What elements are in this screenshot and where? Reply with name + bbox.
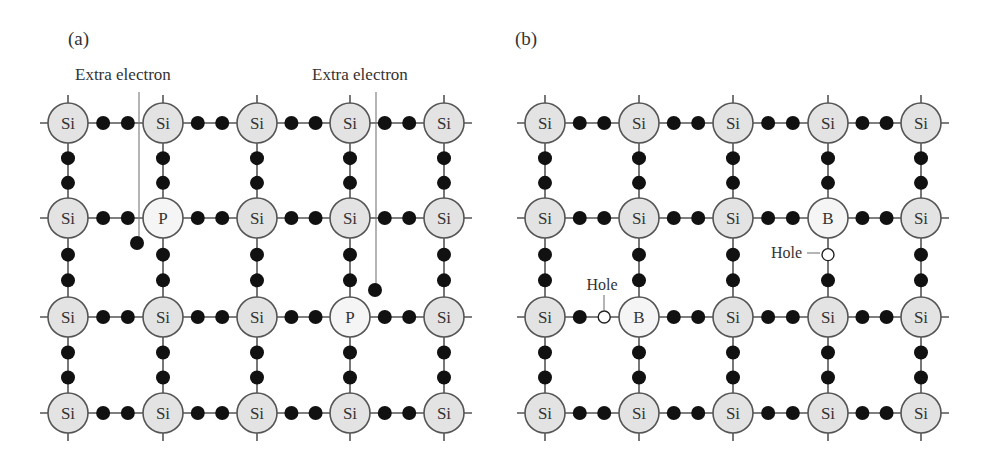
- electron-dot: [156, 176, 170, 190]
- electron-dot: [343, 176, 357, 190]
- electron-dot: [309, 310, 323, 324]
- electron-dot: [786, 211, 800, 225]
- electron-dot: [284, 406, 298, 420]
- atom-symbol: Si: [726, 404, 740, 423]
- annotation-label: Hole: [771, 244, 802, 261]
- electron-dot: [309, 211, 323, 225]
- electron-dot: [632, 370, 646, 384]
- electron-dot: [61, 176, 75, 190]
- electron-dot: [538, 346, 552, 360]
- electron-dot: [191, 211, 205, 225]
- atom-si: Si: [237, 198, 277, 238]
- electron-dot: [726, 151, 740, 165]
- electron-dot: [726, 273, 740, 287]
- electron-dot: [761, 211, 775, 225]
- electron-dot: [156, 370, 170, 384]
- atom-si: Si: [424, 393, 464, 433]
- atom-si: Si: [619, 198, 659, 238]
- atom-si: Si: [808, 103, 848, 143]
- electron-dot: [691, 310, 705, 324]
- electron-dot: [597, 116, 611, 130]
- electron-dot: [61, 370, 75, 384]
- electron-dot: [573, 211, 587, 225]
- electron-dot: [597, 211, 611, 225]
- electron-dot: [538, 248, 552, 262]
- atom-si: Si: [143, 103, 183, 143]
- atom-symbol: Si: [914, 209, 928, 228]
- atom-si: Si: [525, 297, 565, 337]
- annotation-label: Hole: [586, 276, 617, 293]
- electron-dot: [880, 211, 894, 225]
- electron-dot: [786, 116, 800, 130]
- electron-dot: [726, 176, 740, 190]
- electron-dot: [914, 248, 928, 262]
- electron-dot: [914, 370, 928, 384]
- atom-si: Si: [525, 393, 565, 433]
- electron-dot: [632, 248, 646, 262]
- atom-symbol: Si: [538, 209, 552, 228]
- electron-dot: [726, 370, 740, 384]
- atom-symbol: Si: [250, 308, 264, 327]
- electron-dot: [156, 248, 170, 262]
- electron-dot: [761, 406, 775, 420]
- electron-dot: [597, 406, 611, 420]
- electron-dot: [121, 406, 135, 420]
- atom-symbol: Si: [61, 114, 75, 133]
- atom-si: Si: [808, 393, 848, 433]
- atom-symbol: Si: [437, 114, 451, 133]
- electron-dot: [343, 370, 357, 384]
- atom-si: Si: [143, 393, 183, 433]
- extra-electron-annotation: Extra electron: [312, 65, 408, 297]
- electron-dot: [215, 116, 229, 130]
- electron-dot: [402, 211, 416, 225]
- atom-symbol: Si: [437, 404, 451, 423]
- atom-symbol: Si: [538, 308, 552, 327]
- atom-symbol: Si: [821, 308, 835, 327]
- atom-si: Si: [143, 297, 183, 337]
- atom-symbol: Si: [156, 114, 170, 133]
- electron-dot: [632, 176, 646, 190]
- electron-dot: [667, 116, 681, 130]
- atom-symbol: Si: [250, 114, 264, 133]
- electron-dot: [821, 151, 835, 165]
- electron-dot: [284, 211, 298, 225]
- atom-si: Si: [713, 297, 753, 337]
- electron-dot: [437, 273, 451, 287]
- silicon-doping-diagram: (a) SiSiSiSiSiSiPSiSiSiSiSiSiPSiSiSiSiSi…: [0, 0, 995, 472]
- atom-si: Si: [424, 103, 464, 143]
- electron-dot: [855, 211, 869, 225]
- annotations: HoleHole: [586, 244, 820, 310]
- atom-si: Si: [713, 393, 753, 433]
- electron-dot: [855, 406, 869, 420]
- electron-dot: [378, 211, 392, 225]
- atom-si: Si: [901, 198, 941, 238]
- electron-dot: [437, 151, 451, 165]
- electron-dot: [761, 310, 775, 324]
- electron-dot: [786, 406, 800, 420]
- electron-dot: [378, 406, 392, 420]
- atom-symbol: Si: [821, 404, 835, 423]
- atom-symbol: B: [822, 209, 833, 228]
- electron-dot: [632, 151, 646, 165]
- electron-dot: [215, 211, 229, 225]
- panel-n-type-phosphorus: (a) SiSiSiSiSiSiPSiSiSiSiSiSiPSiSiSiSiSi…: [40, 28, 472, 441]
- atom-si: Si: [237, 393, 277, 433]
- atom-symbol: Si: [61, 404, 75, 423]
- electron-dot: [821, 273, 835, 287]
- atom-symbol: Si: [156, 404, 170, 423]
- atom-symbol: Si: [437, 209, 451, 228]
- annotation-label: Extra electron: [312, 65, 408, 84]
- atom-symbol: Si: [914, 308, 928, 327]
- electron-dot: [855, 116, 869, 130]
- electron-dot: [538, 176, 552, 190]
- extra-electron-dot: [368, 283, 382, 297]
- electron-dot: [437, 370, 451, 384]
- electron-dot: [250, 151, 264, 165]
- electron-dot: [343, 248, 357, 262]
- electron-dot: [914, 176, 928, 190]
- electron-dot: [691, 211, 705, 225]
- electron-dot: [786, 310, 800, 324]
- electron-dot: [343, 273, 357, 287]
- electron-dot: [309, 406, 323, 420]
- atom-si: Si: [619, 393, 659, 433]
